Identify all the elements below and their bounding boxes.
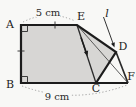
line-l-label: l (105, 7, 109, 20)
line-l (104, 17, 114, 45)
point-label-c: C (92, 82, 100, 95)
point-label-f: F (127, 70, 135, 83)
point-label-a: A (5, 18, 15, 31)
line-l-arrow-head-icon (111, 42, 115, 47)
dimension-label-top: 5 cm (36, 7, 61, 18)
dimension-arc-bottom (22, 85, 127, 95)
point-label-b: B (6, 78, 14, 91)
figure-canvas: 5 cm 9 cm A B C D E F l (0, 0, 136, 107)
point-label-e: E (77, 10, 85, 23)
dimension-label-bottom: 9 cm (45, 91, 70, 102)
point-label-d: D (119, 40, 128, 53)
geometry-diagram: 5 cm 9 cm A B C D E F l (0, 0, 136, 107)
